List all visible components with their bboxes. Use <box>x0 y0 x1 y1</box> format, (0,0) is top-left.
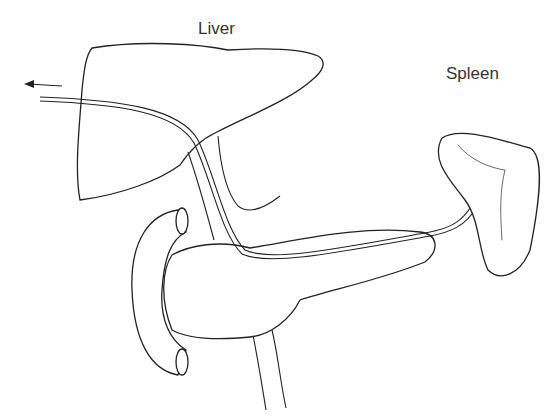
spleen-label: Spleen <box>446 64 499 84</box>
portal-vein <box>188 136 280 240</box>
spleen <box>438 133 539 275</box>
pancreas <box>164 230 435 339</box>
anatomy-diagram <box>0 0 560 417</box>
liver-label: Liver <box>198 19 235 39</box>
liver <box>77 44 323 200</box>
